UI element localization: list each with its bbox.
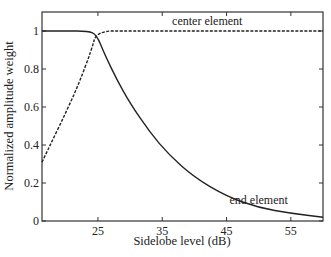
y-tick-label: 0.8	[24, 62, 39, 76]
chart: 25354555 00.20.40.60.81 center element e…	[0, 0, 331, 257]
y-tick-label: 0.2	[24, 176, 39, 190]
plot-frame	[42, 12, 323, 221]
x-tick-label: 25	[92, 224, 104, 238]
y-tick-label: 0.4	[24, 138, 39, 152]
y-axis-label: Normalized amplitude weight	[2, 41, 16, 191]
annotation-center-element: center element	[172, 14, 243, 28]
series-end-element	[42, 31, 323, 217]
x-tick-label: 55	[285, 224, 297, 238]
series-center-element	[42, 31, 323, 162]
x-axis-label: Sidelobe level (dB)	[133, 234, 230, 248]
annotation-end-element: end element	[230, 193, 289, 207]
y-tick-label: 0	[33, 214, 39, 228]
y-tick-label: 1	[33, 24, 39, 38]
series-lines	[42, 31, 323, 217]
y-tick-label: 0.6	[24, 100, 39, 114]
